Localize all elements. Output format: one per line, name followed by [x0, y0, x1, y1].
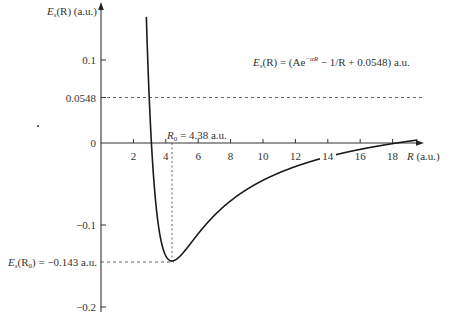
x-axis-arrow-icon	[416, 140, 424, 146]
x-tick-label: 18	[387, 150, 399, 162]
x-tick-label: 10	[258, 150, 270, 162]
y-tick-label: 0.1	[82, 54, 96, 66]
equation-label: Es(R) = (Ae−αR − 1/R + 0.0548) a.u.	[252, 55, 410, 70]
x-axis	[101, 139, 424, 146]
minimum-energy-annotation: Es(R0) = −0.143 a.u.	[7, 256, 97, 270]
x-tick-label: 4	[163, 150, 169, 162]
y-tick-label: 0	[91, 137, 97, 149]
x-tick-label: 8	[228, 150, 234, 162]
x-tick-labels: 2 4 6 8 10 12 14 16 18	[131, 150, 399, 162]
x-tick-label-overlay: 14	[322, 150, 334, 162]
r0-annotation: R0 = 4.38 a.u.	[166, 129, 227, 143]
potential-energy-chart: 2 4 6 8 10 12 14 16 18 R (a.u.) 0.1 0.05…	[0, 0, 450, 323]
y-tick-label: −0.1	[76, 219, 96, 231]
y-axis	[98, 2, 106, 312]
x-tick-label: 6	[195, 150, 201, 162]
y-axis-label: Es(R) (a.u.)	[46, 5, 97, 19]
stray-dot	[37, 125, 39, 127]
x-axis-label: R (a.u.)	[406, 150, 440, 163]
y-tick-label: 0.0548	[66, 92, 97, 104]
x-tick-label: 16	[355, 150, 367, 162]
y-axis-arrow-icon	[98, 2, 104, 10]
x-tick-label: 12	[290, 150, 301, 162]
y-tick-label: −0.2	[76, 301, 96, 313]
x-tick-label: 2	[131, 150, 137, 162]
y-tick-labels: 0.1 0.0548 0 −0.1 −0.2	[66, 54, 97, 313]
